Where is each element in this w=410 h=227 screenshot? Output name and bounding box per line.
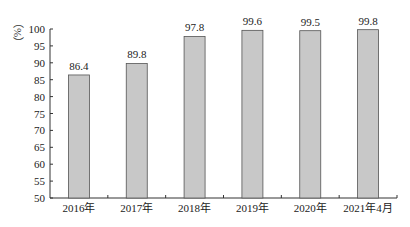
x-category-label: 2016年 (62, 201, 95, 214)
bar-chart: 5055606570758085909510086.42016年89.82017… (0, 0, 410, 227)
data-label: 99.8 (358, 15, 378, 27)
bar (126, 63, 147, 198)
y-tick-label: 80 (34, 91, 46, 103)
data-label: 99.5 (301, 16, 321, 28)
x-category-label: 2017年 (120, 201, 153, 214)
x-category-label: 2018年 (178, 201, 211, 214)
data-label: 99.6 (243, 15, 263, 27)
x-category-label: 2021年4月 (343, 201, 393, 214)
x-category-label: 2020年 (294, 201, 327, 214)
y-tick-label: 100 (29, 23, 46, 35)
bar (242, 30, 263, 198)
y-tick-label: 70 (34, 124, 46, 136)
bar (358, 30, 379, 198)
data-label: 86.4 (69, 60, 89, 72)
y-tick-label: 90 (34, 57, 46, 69)
y-tick-label: 50 (34, 192, 46, 204)
data-label: 89.8 (127, 48, 147, 60)
y-tick-label: 75 (34, 108, 46, 120)
x-category-label: 2019年 (236, 201, 269, 214)
y-tick-label: 65 (34, 141, 46, 153)
bar (184, 36, 205, 198)
data-label: 97.8 (185, 21, 205, 33)
y-tick-label: 60 (34, 158, 46, 170)
bar (68, 75, 89, 198)
y-tick-label: 85 (34, 74, 46, 86)
y-tick-label: 55 (34, 175, 46, 187)
y-tick-label: 95 (34, 40, 46, 52)
bar (300, 31, 321, 198)
